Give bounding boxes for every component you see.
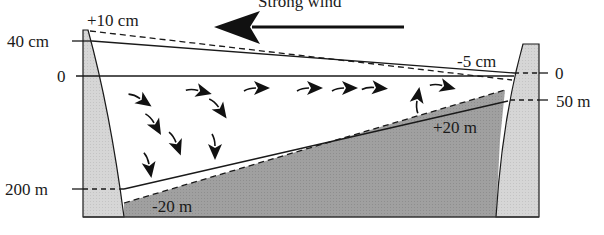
current-arrow-icon bbox=[429, 76, 458, 96]
label-left-depth-bottom: 200 m bbox=[5, 180, 48, 199]
label-right-depth: 50 m bbox=[556, 92, 590, 111]
label-right-zero: 0 bbox=[555, 64, 564, 83]
current-arrow-icon bbox=[332, 81, 358, 95]
current-arrow-icon bbox=[297, 81, 323, 95]
seiche-diagram: Strong wind +10 cm -5 cm 40 cm 0 200 m 0… bbox=[0, 0, 604, 235]
current-arrow-icon bbox=[185, 81, 214, 101]
surface-dashed-line bbox=[90, 31, 512, 80]
label-thermocline-rise: +20 m bbox=[433, 118, 477, 137]
current-arrow-icon bbox=[126, 86, 155, 112]
current-arrow-icon bbox=[206, 93, 232, 122]
current-arrow-icon bbox=[208, 134, 222, 160]
label-left-zero: 0 bbox=[57, 67, 66, 86]
current-arrow-icon bbox=[140, 151, 158, 179]
right-shore-wall bbox=[496, 44, 539, 217]
current-arrow-icon bbox=[408, 86, 426, 114]
current-arrow-icon bbox=[361, 79, 388, 95]
current-arrow-icon bbox=[165, 129, 187, 158]
label-thermocline-drop: -20 m bbox=[152, 197, 192, 216]
current-arrow-icon bbox=[244, 81, 270, 95]
current-arrow-icon bbox=[142, 109, 167, 139]
surface-solid-line bbox=[92, 41, 514, 73]
label-surface-rise: +10 cm bbox=[87, 11, 139, 30]
wind-arrow-icon bbox=[214, 11, 404, 44]
label-left-depth-top: 40 cm bbox=[7, 32, 49, 51]
label-surface-drop: -5 cm bbox=[457, 52, 496, 71]
diagram-title: Strong wind bbox=[258, 0, 342, 11]
